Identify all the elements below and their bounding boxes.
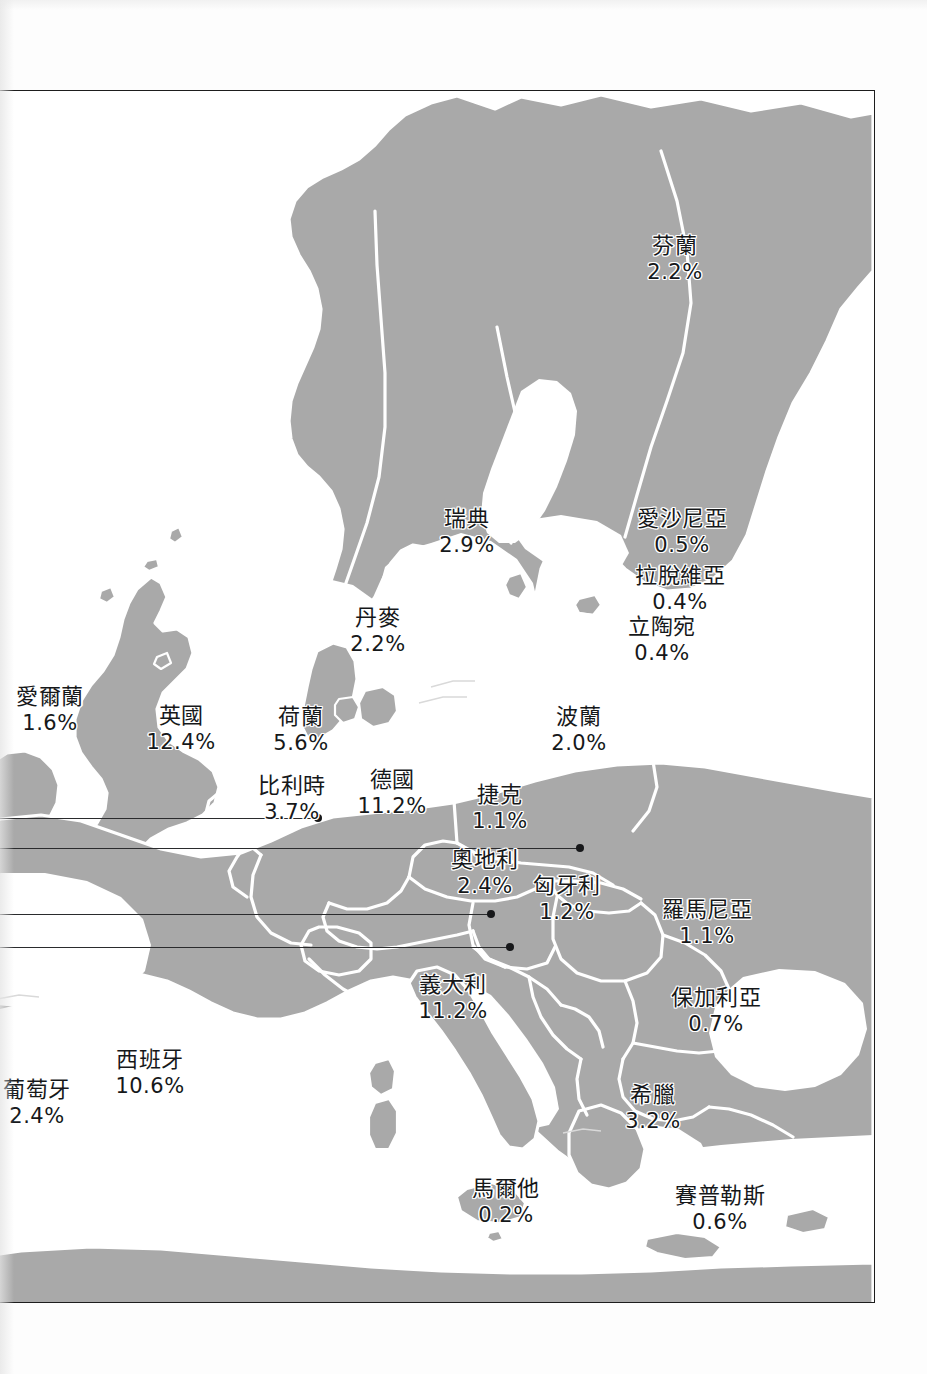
country-value: 0.6% [675, 1210, 765, 1235]
scan-vignette-top [0, 0, 927, 10]
country-label-portugal: 葡萄牙2.4% [3, 1077, 71, 1129]
country-value: 2.4% [3, 1104, 71, 1129]
country-label-spain: 西班牙10.6% [115, 1047, 184, 1099]
country-label-denmark: 丹麥2.2% [350, 605, 405, 657]
country-name: 西班牙 [115, 1047, 184, 1073]
country-value: 1.1% [662, 924, 752, 949]
leader-4-line [0, 947, 510, 948]
country-value: 0.2% [472, 1203, 540, 1228]
country-value: 11.2% [357, 794, 426, 819]
country-value: 1.6% [16, 711, 84, 736]
country-value: 3.7% [258, 800, 326, 825]
country-label-ireland: 愛爾蘭1.6% [16, 684, 84, 736]
country-label-estonia: 愛沙尼亞0.5% [637, 506, 727, 558]
country-label-finland: 芬蘭2.2% [647, 233, 702, 285]
country-name: 荷蘭 [273, 704, 328, 730]
country-name: 義大利 [418, 972, 487, 998]
country-label-germany: 德國11.2% [357, 767, 426, 819]
leader-4-dot [506, 943, 514, 951]
europe-map-graphic: .land { fill: #a9a9a9; stroke: #ffffff; … [0, 91, 875, 1303]
country-value: 5.6% [273, 731, 328, 756]
country-label-austria: 奧地利2.4% [451, 847, 519, 899]
country-value: 12.4% [146, 730, 215, 755]
country-name: 匈牙利 [533, 873, 601, 899]
scanned-page: .land { fill: #a9a9a9; stroke: #ffffff; … [0, 0, 927, 1374]
country-value: 2.0% [551, 731, 606, 756]
country-value: 11.2% [418, 999, 487, 1024]
country-label-uk: 英國12.4% [146, 703, 215, 755]
country-name: 奧地利 [451, 847, 519, 873]
landmass-malta [487, 1231, 503, 1242]
country-label-hungary: 匈牙利1.2% [533, 873, 601, 925]
country-name: 比利時 [258, 773, 326, 799]
country-value: 3.2% [625, 1109, 680, 1134]
country-name: 愛沙尼亞 [637, 506, 727, 532]
country-value: 1.2% [533, 900, 601, 925]
country-label-poland: 波蘭2.0% [551, 704, 606, 756]
country-name: 拉脫維亞 [635, 563, 725, 589]
country-name: 德國 [357, 767, 426, 793]
country-label-cyprus: 賽普勒斯0.6% [675, 1183, 765, 1235]
country-label-lithuania: 立陶宛0.4% [628, 614, 696, 666]
landmass-zealand [359, 687, 397, 727]
country-name: 瑞典 [439, 506, 494, 532]
country-value: 2.2% [350, 632, 405, 657]
country-name: 立陶宛 [628, 614, 696, 640]
country-value: 0.5% [637, 533, 727, 558]
country-label-czech: 捷克1.1% [472, 782, 527, 834]
country-value: 0.7% [671, 1012, 761, 1037]
country-name: 芬蘭 [647, 233, 702, 259]
country-label-latvia: 拉脫維亞0.4% [635, 563, 725, 615]
landmass-funen [335, 697, 359, 723]
country-label-sweden: 瑞典2.9% [439, 506, 494, 558]
country-label-italy: 義大利11.2% [418, 972, 487, 1024]
leader-3-dot [487, 910, 495, 918]
country-name: 愛爾蘭 [16, 684, 84, 710]
country-name: 波蘭 [551, 704, 606, 730]
country-label-greece: 希臘3.2% [625, 1082, 680, 1134]
country-value: 2.9% [439, 533, 494, 558]
country-value: 0.4% [628, 641, 696, 666]
country-value: 10.6% [115, 1074, 184, 1099]
country-value: 2.2% [647, 260, 702, 285]
landmass-sardinia [369, 1099, 397, 1149]
leader-3-line [0, 914, 491, 915]
country-name: 馬爾他 [472, 1176, 540, 1202]
country-name: 羅馬尼亞 [662, 897, 752, 923]
country-label-netherlands: 荷蘭5.6% [273, 704, 328, 756]
country-name: 保加利亞 [671, 985, 761, 1011]
country-name: 英國 [146, 703, 215, 729]
country-name: 捷克 [472, 782, 527, 808]
country-label-belgium: 比利時3.7% [258, 773, 326, 825]
country-name: 丹麥 [350, 605, 405, 631]
leader-2-dot [576, 844, 584, 852]
map-frame: .land { fill: #a9a9a9; stroke: #ffffff; … [0, 90, 875, 1303]
country-value: 0.4% [635, 590, 725, 615]
landmass-corsica [369, 1059, 395, 1095]
country-value: 1.1% [472, 809, 527, 834]
country-name: 葡萄牙 [3, 1077, 71, 1103]
country-label-bulgaria: 保加利亞0.7% [671, 985, 761, 1037]
country-label-malta: 馬爾他0.2% [472, 1176, 540, 1228]
country-value: 2.4% [451, 874, 519, 899]
country-name: 希臘 [625, 1082, 680, 1108]
country-name: 賽普勒斯 [675, 1183, 765, 1209]
country-label-romania: 羅馬尼亞1.1% [662, 897, 752, 949]
